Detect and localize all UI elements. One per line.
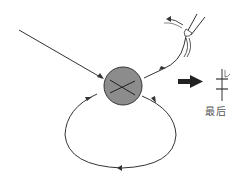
result-label: 最后 (205, 103, 226, 118)
pliers-icon (184, 14, 205, 57)
incoming-arrow (19, 30, 104, 79)
pull-direction-arrow-icon (164, 16, 183, 28)
loop-arrow (65, 94, 176, 171)
outgoing-thread-arrow (144, 36, 186, 78)
result-symbol-icon (216, 69, 230, 101)
center-ball (104, 67, 142, 105)
diagram-canvas (0, 0, 245, 182)
big-right-arrow-icon (178, 75, 203, 88)
